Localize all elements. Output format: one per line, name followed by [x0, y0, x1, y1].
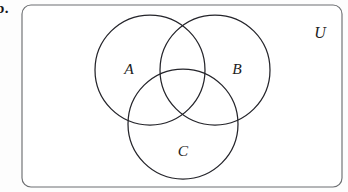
- set-label-b: B: [232, 60, 242, 77]
- universal-set-label: U: [314, 24, 327, 41]
- venn-diagram-canvas: A B C U: [0, 0, 348, 192]
- set-label-a: A: [123, 60, 134, 77]
- universal-set-rectangle: [22, 5, 342, 187]
- set-label-c: C: [178, 142, 189, 159]
- venn-diagram-figure: b. A B C U: [0, 0, 348, 192]
